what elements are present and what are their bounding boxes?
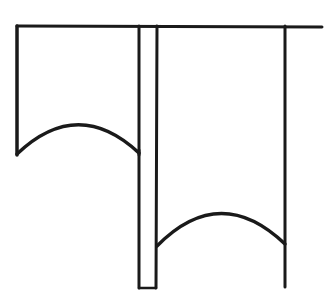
narrow-strip bbox=[139, 26, 157, 288]
left-panel bbox=[17, 26, 139, 155]
narrow-strip-right-edge bbox=[156, 26, 157, 288]
line-drawing-canvas bbox=[0, 0, 328, 308]
right-panel bbox=[157, 26, 285, 287]
left-panel-arch bbox=[17, 125, 139, 154]
right-panel-arch bbox=[157, 213, 285, 246]
drawing-svg bbox=[0, 0, 328, 308]
top-bar-line bbox=[17, 26, 322, 27]
